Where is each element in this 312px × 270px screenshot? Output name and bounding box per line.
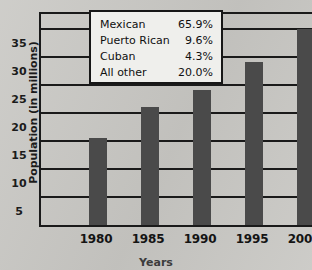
x-tick-label: 1990 (177, 232, 223, 246)
legend-row: Puerto Rican9.6% (100, 33, 213, 49)
y-tick-label: 30 (4, 64, 34, 77)
legend-row-value: 20.0% (178, 65, 213, 81)
x-axis-title: Years (0, 256, 312, 269)
legend-row-label: Mexican (100, 17, 145, 33)
breakdown-legend: Mexican65.9%Puerto Rican9.6%Cuban4.3%All… (89, 10, 223, 84)
bar (89, 138, 107, 225)
gridline (41, 140, 312, 142)
chart-page: Population (in millions) 5101520253035 1… (0, 0, 312, 270)
legend-row-value: 9.6% (185, 33, 213, 49)
y-tick-label: 20 (4, 120, 34, 133)
legend-row-label: Cuban (100, 49, 135, 65)
gridline (41, 84, 312, 86)
x-tick-label: 1985 (125, 232, 171, 246)
y-axis-title: Population (in millions) (27, 33, 40, 193)
bar (141, 107, 159, 225)
bar (245, 62, 263, 225)
legend-row: Cuban4.3% (100, 49, 213, 65)
legend-row-value: 4.3% (185, 49, 213, 65)
bar (297, 29, 312, 225)
x-tick-label: 1995 (229, 232, 275, 246)
y-tick-label: 25 (4, 92, 34, 105)
legend-row-value: 65.9% (178, 17, 213, 33)
x-tick-label: 2000 (281, 232, 312, 246)
gridline (41, 196, 312, 198)
legend-row: Mexican65.9% (100, 17, 213, 33)
y-tick-label: 5 (4, 204, 34, 217)
bar (193, 90, 211, 225)
legend-row-label: All other (100, 65, 146, 81)
y-tick-label: 35 (4, 36, 34, 49)
x-tick-label: 1980 (73, 232, 119, 246)
y-tick-label: 10 (4, 176, 34, 189)
legend-row: All other20.0% (100, 65, 213, 81)
legend-row-label: Puerto Rican (100, 33, 170, 49)
gridline (41, 168, 312, 170)
gridline (41, 112, 312, 114)
y-tick-label: 15 (4, 148, 34, 161)
